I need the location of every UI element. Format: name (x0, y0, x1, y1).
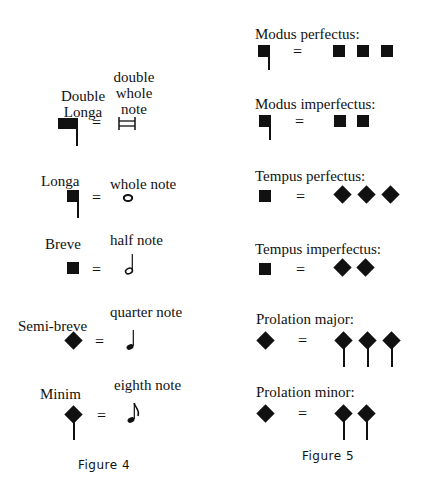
equals-sign: = (92, 262, 101, 278)
double-whole-note-icon (118, 117, 138, 131)
semibreve-icon (256, 331, 274, 349)
equals-sign: = (296, 189, 305, 205)
figure-4-caption: Figure 4 (78, 458, 130, 472)
equals-sign: = (298, 406, 307, 422)
equals-sign: = (296, 262, 305, 278)
minim-label: Minim (40, 386, 81, 402)
breve-icon (357, 45, 369, 57)
modus-imperfectus-label: Modus imperfectus: (255, 96, 375, 112)
breve-icon (334, 115, 346, 127)
quarter-note-label: quarter note (110, 304, 182, 320)
whole-note-icon (123, 194, 133, 202)
half-note-icon (125, 253, 137, 277)
prolation-major-label: Prolation major: (256, 311, 354, 327)
semibreve-icon (381, 185, 399, 203)
breve-icon (333, 45, 345, 57)
double-whole-note-label: double whole note (108, 69, 160, 117)
breve-icon (67, 262, 79, 274)
equals-sign: = (295, 114, 304, 130)
semibreve-icon (356, 258, 374, 276)
semibreve-icon (333, 258, 351, 276)
modus-perfectus-label: Modus perfectus: (255, 26, 360, 42)
eighth-note-label: eighth note (114, 377, 181, 393)
half-note-label: half note (110, 232, 163, 248)
equals-sign: = (97, 408, 106, 424)
figure-5-caption: Figure 5 (302, 449, 354, 463)
breve-label: Breve (45, 236, 81, 252)
prolation-minor-label: Prolation minor: (256, 384, 355, 400)
quarter-note-icon (126, 329, 138, 353)
eighth-note-icon (127, 402, 141, 426)
breve-icon (381, 45, 393, 57)
tempus-perfectus-label: Tempus perfectus: (255, 168, 365, 184)
breve-icon (259, 263, 271, 275)
equals-sign: = (95, 334, 104, 350)
equals-sign: = (92, 190, 101, 206)
whole-note-label: whole note (110, 176, 176, 192)
semibreve-icon (333, 185, 351, 203)
semibreve-icon (357, 185, 375, 203)
breve-icon (259, 190, 271, 202)
breve-icon (357, 115, 369, 127)
equals-sign: = (298, 333, 307, 349)
tempus-imperfectus-label: Tempus imperfectus: (255, 241, 381, 257)
semibreve-icon (64, 331, 82, 349)
longa-label: Longa (41, 173, 79, 189)
semibreve-icon (256, 404, 274, 422)
semi-breve-label: Semi-breve (18, 318, 87, 334)
equals-sign: = (293, 44, 302, 60)
equals-sign: = (92, 115, 101, 131)
